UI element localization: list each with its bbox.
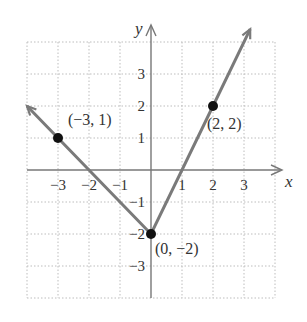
y-tick-label: 2 — [138, 98, 146, 114]
data-point-marker — [146, 229, 156, 239]
x-tick-label: −1 — [112, 177, 128, 193]
y-tick-label: −2 — [129, 226, 145, 242]
x-tick-label: 2 — [209, 177, 217, 193]
y-tick-label: −3 — [129, 258, 145, 274]
x-tick-label: −2 — [81, 177, 97, 193]
data-point-marker — [208, 101, 218, 111]
y-tick-label: −1 — [129, 194, 145, 210]
x-tick-label: 3 — [240, 177, 248, 193]
x-tick-label: −3 — [50, 177, 66, 193]
point-label: (−3, 1) — [68, 111, 112, 129]
data-point-marker — [53, 133, 63, 143]
point-label: (0, −2) — [155, 240, 199, 258]
y-tick-label: 3 — [138, 66, 146, 82]
coordinate-plane-chart: xy −3−2−1123321−1−2−3 (−3, 1)(0, −2)(2, … — [0, 0, 307, 322]
y-axis-label: y — [133, 19, 143, 38]
y-tick-label: 1 — [138, 130, 146, 146]
x-axis-label: x — [284, 172, 293, 191]
point-label: (2, 2) — [207, 115, 242, 133]
x-tick-label: 1 — [178, 177, 186, 193]
